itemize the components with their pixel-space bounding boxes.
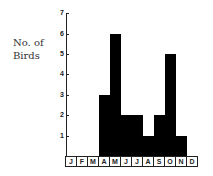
bar-9	[165, 54, 176, 156]
y-tick	[66, 95, 69, 96]
y-tick-label: 5	[56, 50, 64, 58]
month-label: M	[110, 157, 121, 166]
month-label: F	[77, 157, 88, 166]
y-tick-label: 7	[56, 9, 64, 17]
month-label: D	[187, 157, 197, 166]
y-tick-label: 2	[56, 111, 64, 119]
month-label: J	[132, 157, 143, 166]
month-label: J	[66, 157, 77, 166]
bar-4	[110, 34, 121, 156]
y-axis-label-line1: No. of	[13, 36, 44, 49]
y-tick	[66, 13, 69, 14]
month-label: N	[176, 157, 187, 166]
y-tick	[66, 74, 69, 75]
y-tick	[66, 34, 69, 35]
month-label: M	[88, 157, 99, 166]
y-axis-label-line2: Birds	[13, 49, 44, 62]
y-tick	[66, 54, 69, 55]
bar-3	[99, 95, 110, 156]
month-label: J	[121, 157, 132, 166]
month-label: S	[154, 157, 165, 166]
bar-8	[154, 115, 165, 156]
bar-7	[143, 136, 154, 156]
bar-10	[176, 136, 187, 156]
y-tick	[66, 115, 69, 116]
y-tick-label: 6	[56, 30, 64, 38]
y-axis-label: No. of Birds	[13, 36, 44, 62]
y-tick	[66, 136, 69, 137]
month-label: A	[143, 157, 154, 166]
bar-6	[132, 115, 143, 156]
month-label: O	[165, 157, 176, 166]
y-tick-label: 4	[56, 70, 64, 78]
y-tick-label: 1	[56, 132, 64, 140]
month-label: A	[99, 157, 110, 166]
y-tick-label: 3	[56, 91, 64, 99]
month-strip: JFMAMJJASOND	[65, 156, 198, 167]
bar-5	[121, 115, 132, 156]
